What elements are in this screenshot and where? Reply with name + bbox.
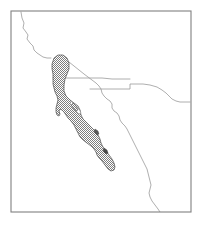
map-background <box>0 0 202 225</box>
map-canvas <box>0 0 202 225</box>
map-figure <box>0 0 202 225</box>
